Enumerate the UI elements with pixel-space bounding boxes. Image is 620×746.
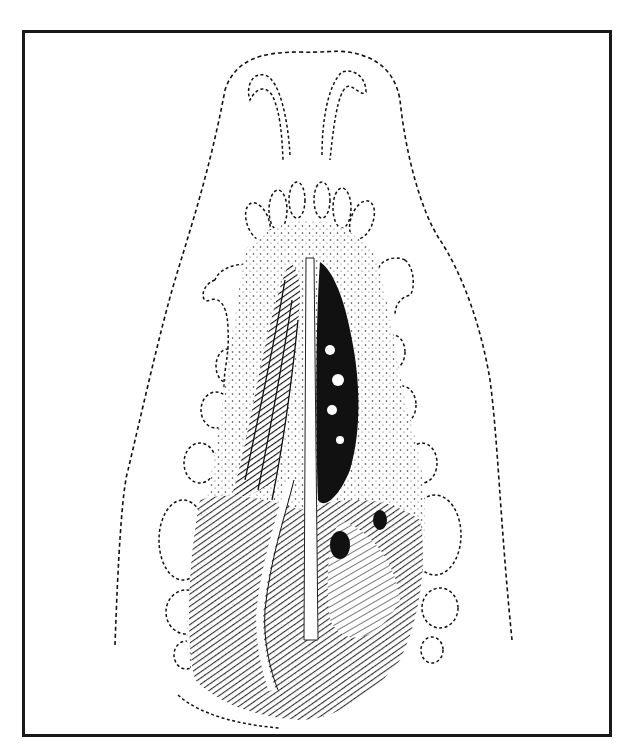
right-incisor-curl xyxy=(322,71,366,160)
anatomical-illustration xyxy=(0,0,620,746)
left-incisor-curl xyxy=(249,75,290,160)
